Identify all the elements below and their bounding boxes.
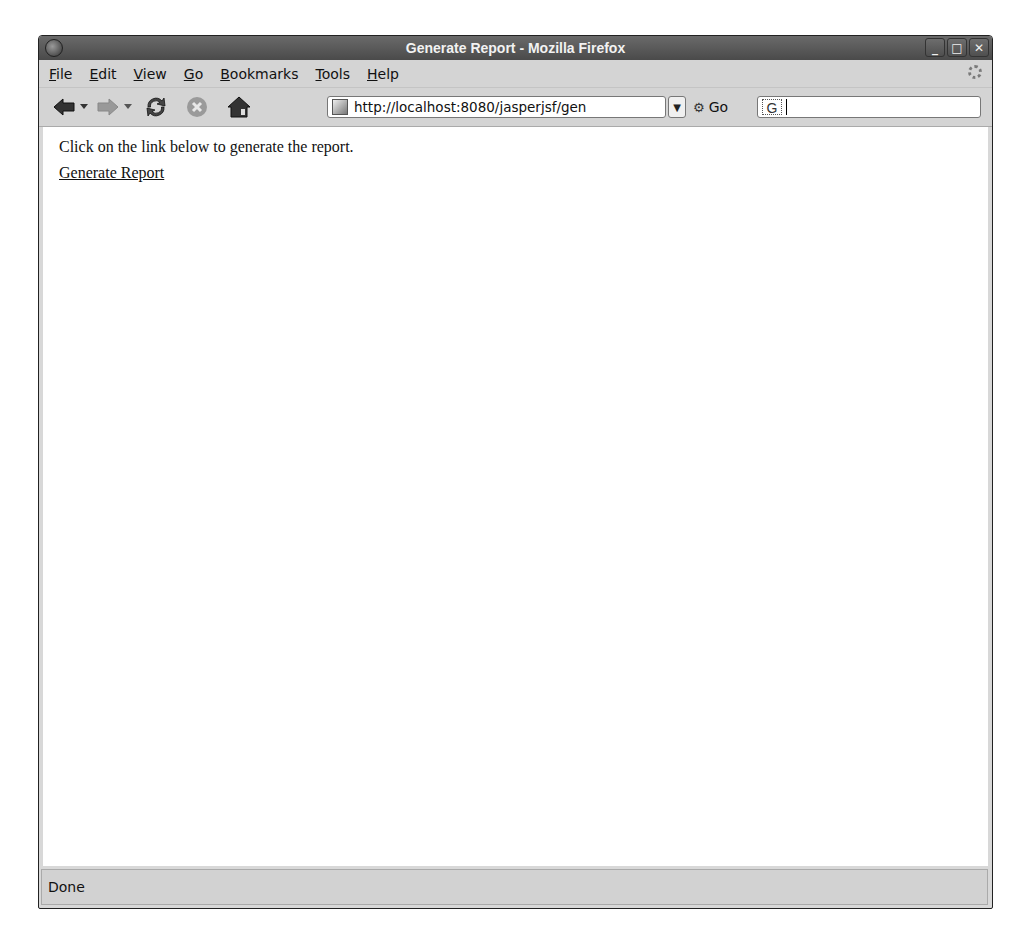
chevron-down-icon bbox=[124, 104, 132, 110]
browser-window: Generate Report - Mozilla Firefox _ □ ✕ … bbox=[38, 35, 993, 909]
go-icon: ⚙ bbox=[693, 100, 705, 115]
url-input[interactable]: http://localhost:8080/jasperjsf/gen bbox=[327, 96, 666, 118]
back-history-dropdown[interactable] bbox=[79, 96, 89, 118]
title-bar[interactable]: Generate Report - Mozilla Firefox _ □ ✕ bbox=[39, 36, 992, 60]
navigation-toolbar: http://localhost:8080/jasperjsf/gen ▼ ⚙ … bbox=[39, 88, 992, 127]
back-button[interactable] bbox=[51, 96, 77, 118]
reload-icon bbox=[144, 95, 168, 119]
stop-button[interactable] bbox=[185, 96, 209, 118]
home-button[interactable] bbox=[225, 96, 253, 118]
window-menu-icon[interactable] bbox=[45, 39, 63, 57]
menu-view[interactable]: View bbox=[134, 66, 167, 82]
text-caret bbox=[786, 99, 787, 115]
url-history-dropdown[interactable]: ▼ bbox=[668, 96, 686, 118]
go-button[interactable]: ⚙ Go bbox=[693, 96, 728, 118]
reload-button[interactable] bbox=[143, 96, 169, 118]
minimize-icon: _ bbox=[932, 41, 938, 55]
url-text: http://localhost:8080/jasperjsf/gen bbox=[354, 99, 586, 115]
chevron-down-icon: ▼ bbox=[673, 102, 681, 113]
search-input[interactable]: G bbox=[757, 96, 981, 118]
forward-history-dropdown[interactable] bbox=[123, 96, 133, 118]
minimize-button[interactable]: _ bbox=[925, 38, 945, 57]
forward-arrow-icon bbox=[96, 97, 120, 117]
close-icon: ✕ bbox=[974, 41, 984, 55]
maximize-button[interactable]: □ bbox=[947, 38, 967, 57]
menu-tools[interactable]: Tools bbox=[315, 66, 350, 82]
back-arrow-icon bbox=[52, 97, 76, 117]
throbber-icon bbox=[968, 65, 982, 79]
window-title: Generate Report - Mozilla Firefox bbox=[39, 40, 992, 56]
menu-file[interactable]: File bbox=[49, 66, 72, 82]
generate-report-link[interactable]: Generate Report bbox=[59, 164, 164, 181]
intro-text: Click on the link below to generate the … bbox=[59, 137, 972, 157]
home-icon bbox=[226, 95, 252, 119]
page-content: Click on the link below to generate the … bbox=[43, 127, 988, 866]
close-button[interactable]: ✕ bbox=[969, 38, 989, 57]
chevron-down-icon bbox=[80, 104, 88, 110]
go-label: Go bbox=[709, 99, 728, 115]
status-text: Done bbox=[48, 879, 85, 895]
menu-edit[interactable]: Edit bbox=[89, 66, 116, 82]
search-engine-icon[interactable]: G bbox=[762, 99, 782, 115]
menu-go[interactable]: Go bbox=[184, 66, 203, 82]
menu-bookmarks[interactable]: Bookmarks bbox=[220, 66, 298, 82]
forward-button[interactable] bbox=[95, 96, 121, 118]
stop-icon bbox=[186, 96, 208, 118]
status-bar: Done bbox=[41, 869, 988, 905]
maximize-icon: □ bbox=[951, 41, 962, 55]
menu-help[interactable]: Help bbox=[367, 66, 399, 82]
page-favicon-icon bbox=[332, 99, 348, 115]
window-controls: _ □ ✕ bbox=[925, 38, 989, 57]
menu-bar: File Edit View Go Bookmarks Tools Help bbox=[39, 60, 992, 88]
